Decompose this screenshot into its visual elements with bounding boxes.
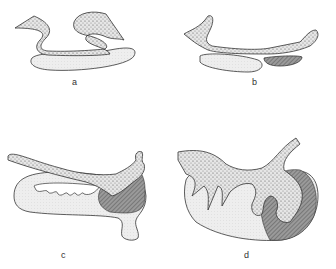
panel-d bbox=[178, 138, 318, 240]
panel-b-left-body bbox=[200, 54, 262, 72]
panel-label-d: d bbox=[244, 250, 249, 260]
panel-a bbox=[15, 12, 135, 70]
panel-label-c: c bbox=[61, 250, 66, 260]
panel-label-b: b bbox=[252, 77, 257, 87]
panel-b bbox=[184, 16, 318, 72]
panel-b-upper-layer bbox=[184, 16, 318, 54]
panel-b-dark-body bbox=[264, 56, 302, 66]
embryology-figure bbox=[0, 0, 336, 269]
panel-label-a: a bbox=[72, 77, 77, 87]
panel-a-folded-layer bbox=[15, 12, 124, 56]
panel-c bbox=[8, 151, 146, 240]
